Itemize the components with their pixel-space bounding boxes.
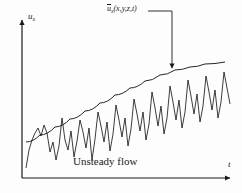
figure-caption: Unsteady flow bbox=[73, 156, 137, 167]
y-axis-label: ux bbox=[28, 12, 35, 22]
unsteady-flow-figure: ux t Unsteady flow ux(x,y,z,t) bbox=[0, 0, 242, 193]
mean-velocity-curve bbox=[26, 62, 225, 142]
x-axis-label: t bbox=[228, 160, 231, 169]
y-axis-label-subscript: x bbox=[33, 16, 36, 22]
annotation-leader-line bbox=[148, 11, 172, 68]
mean-symbol-arguments: (x,y,z,t) bbox=[113, 4, 136, 13]
instantaneous-velocity-trace bbox=[26, 72, 230, 168]
mean-velocity-annotation-label: ux(x,y,z,t) bbox=[107, 4, 137, 15]
